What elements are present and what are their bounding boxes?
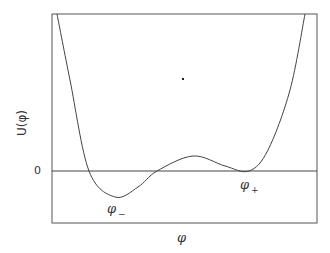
phi-plus-symbol: φ — [240, 177, 249, 192]
phi-minus-subscript: − — [118, 209, 126, 219]
phi-minus-symbol: φ — [107, 201, 116, 216]
zero-tick-label: 0 — [34, 164, 41, 177]
potential-plot — [0, 0, 330, 253]
phi-plus-label: φ+ — [240, 177, 259, 192]
x-axis-label: φ — [177, 230, 186, 245]
potential-curve — [57, 14, 305, 198]
phi-minus-label: φ− — [107, 201, 126, 216]
center-dot — [182, 78, 184, 80]
phi-plus-subscript: + — [251, 185, 259, 195]
plot-frame — [52, 14, 317, 223]
y-axis-label: U(φ) — [15, 107, 29, 139]
